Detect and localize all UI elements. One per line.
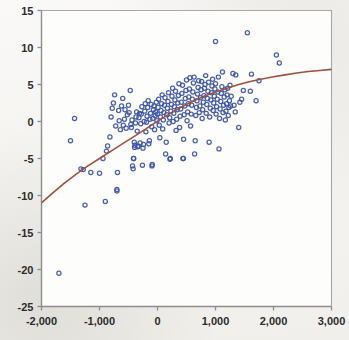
x-tick-label: 3,000: [318, 315, 346, 327]
x-axis: -2,000-1,00001,0002,0003,000: [26, 307, 345, 327]
y-tick-label: -5: [24, 153, 34, 165]
y-tick-label: 0: [27, 116, 33, 128]
x-tick-label: -2,000: [26, 315, 57, 327]
y-tick-label: 15: [21, 5, 33, 17]
y-tick-label: -15: [18, 227, 34, 239]
y-tick-label: 5: [27, 79, 33, 91]
y-axis: 151050-5-10-15-20-25: [18, 5, 42, 313]
x-tick-label: 0: [154, 315, 160, 327]
x-tick-label: 2,000: [260, 315, 288, 327]
scatter-plot-figure: 151050-5-10-15-20-25-2,000-1,00001,0002,…: [0, 0, 349, 340]
plot-area-background: [42, 11, 332, 307]
y-tick-label: 10: [21, 42, 33, 54]
y-tick-label: -20: [18, 264, 34, 276]
y-tick-label: -10: [18, 190, 34, 202]
chart-canvas: 151050-5-10-15-20-25-2,000-1,00001,0002,…: [0, 0, 349, 340]
y-tick-label: -25: [18, 301, 34, 313]
x-tick-label: 1,000: [202, 315, 230, 327]
x-tick-label: -1,000: [84, 315, 115, 327]
